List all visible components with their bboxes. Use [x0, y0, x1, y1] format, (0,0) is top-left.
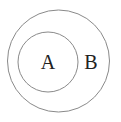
euler-diagram: A B: [0, 0, 121, 122]
set-b-label: B: [84, 51, 97, 73]
set-a-label: A: [41, 51, 56, 73]
